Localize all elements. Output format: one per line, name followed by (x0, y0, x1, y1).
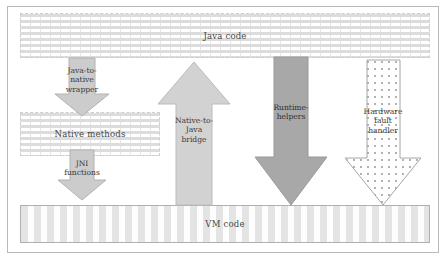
diagram-canvas: Java code Native methods VM code Java-to… (0, 0, 447, 263)
arrow-label-line: Hardware (345, 107, 421, 116)
arrow-jni-functions-label: JNI functions (58, 159, 106, 178)
layer-native-methods-label: Native methods (55, 129, 126, 139)
arrow-label-line: wrapper (55, 85, 109, 94)
arrow-java-to-native-wrapper-label: Java-to- native wrapper (55, 66, 109, 94)
layer-java-code: Java code (20, 13, 430, 58)
layer-java-code-label: Java code (203, 31, 246, 41)
arrow-hardware-fault-handler: Hardware fault handler (345, 60, 421, 205)
arrow-label-line: Java-to- (55, 66, 109, 75)
arrow-hardware-fault-handler-label: Hardware fault handler (345, 107, 421, 135)
arrow-label-line: JNI (58, 159, 106, 168)
arrow-label-line: Java (158, 125, 230, 134)
arrow-label-line: functions (58, 168, 106, 177)
arrow-jni-functions: JNI functions (58, 150, 106, 200)
arrow-label-line: helpers (255, 112, 327, 121)
arrow-runtime-helpers-label: Runtime- helpers (255, 103, 327, 122)
arrow-label-line: Native-to- (158, 116, 230, 125)
arrow-label-line: bridge (158, 135, 230, 144)
arrow-runtime-helpers: Runtime- helpers (255, 57, 327, 205)
layer-vm-code: VM code (20, 205, 430, 243)
arrow-native-to-java-bridge: Native-to- Java bridge (158, 62, 230, 205)
arrow-label-line: Runtime- (255, 103, 327, 112)
arrow-label-line: native (55, 75, 109, 84)
arrow-native-to-java-bridge-label: Native-to- Java bridge (158, 116, 230, 144)
arrow-label-line: fault (345, 116, 421, 125)
arrow-java-to-native-wrapper: Java-to- native wrapper (55, 58, 109, 116)
arrow-label-line: handler (345, 126, 421, 135)
layer-vm-code-label: VM code (205, 219, 244, 229)
